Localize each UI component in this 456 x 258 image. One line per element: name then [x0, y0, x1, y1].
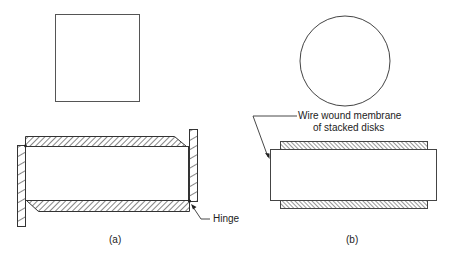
upper-plate: [26, 137, 187, 147]
callout-line1: Wire wound membrane: [298, 110, 402, 121]
caption-a: (a): [109, 234, 121, 245]
callout-arrow-icon: [265, 153, 270, 159]
membrane-module-diagram: Hinge (a) Wire wound membrane of stacked…: [0, 0, 456, 258]
hinge-dot-right: [188, 199, 191, 202]
square-top-view: [56, 15, 140, 102]
upper-disk-stack: [281, 142, 428, 150]
hinge-arrow-icon: [191, 204, 197, 210]
callout-line2: of stacked disks: [313, 122, 384, 133]
panel-b: Wire wound membrane of stacked disks (b): [253, 16, 437, 245]
circle-top-view: [300, 16, 390, 106]
lower-plate: [27, 201, 190, 212]
lower-disk-stack: [281, 201, 428, 209]
inner-compartment-b: [271, 150, 437, 201]
caption-b: (b): [346, 234, 358, 245]
inner-compartment-a: [26, 147, 189, 201]
hinge-dot-left: [24, 145, 27, 148]
hinge-label: Hinge: [213, 213, 240, 224]
panel-a: Hinge (a): [18, 15, 240, 246]
